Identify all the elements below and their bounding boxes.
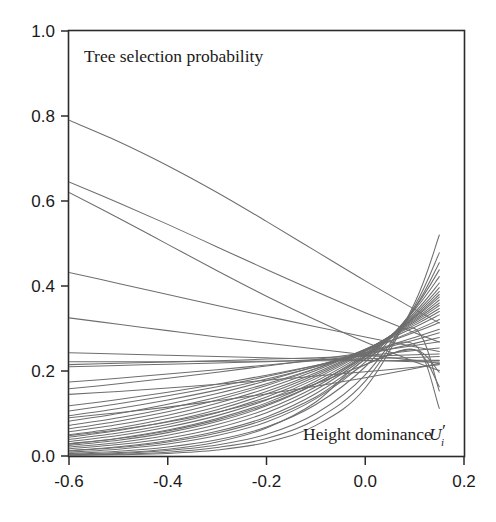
y-tick-label: 0.2 [31, 362, 55, 381]
svg-text:Height dominance: Height dominance [303, 424, 432, 444]
y-tick-label: 0.0 [31, 447, 55, 466]
y-axis-ticks: 0.00.20.40.60.81.0 [31, 22, 69, 466]
data-curve [69, 235, 439, 456]
x-tick-label: 0.2 [452, 472, 476, 491]
x-tick-label: -0.6 [54, 472, 83, 491]
curve-group [69, 120, 439, 455]
data-curve [69, 323, 439, 422]
figure-panel: 0.00.20.40.60.81.0 -0.6-0.4-0.20.00.2 Tr… [0, 0, 496, 522]
x-tick-label: 0.0 [353, 472, 377, 491]
x-tick-label: -0.2 [252, 472, 281, 491]
y-tick-label: 1.0 [31, 22, 55, 41]
data-curve [69, 354, 439, 365]
data-curve [69, 303, 439, 439]
x-tick-label: -0.4 [153, 472, 182, 491]
y-tick-label: 0.6 [31, 192, 55, 211]
data-curve [69, 309, 439, 435]
x-axis-ticks: -0.6-0.4-0.20.00.2 [54, 457, 475, 491]
plot-frame [69, 31, 465, 457]
y-tick-label: 0.4 [31, 277, 55, 296]
data-curve [69, 182, 439, 342]
chart-svg: 0.00.20.40.60.81.0 -0.6-0.4-0.20.00.2 Tr… [0, 0, 496, 522]
y-tick-label: 0.8 [31, 107, 55, 126]
data-curve [69, 320, 439, 426]
plot-title: Tree selection probability [84, 46, 263, 66]
svg-text:i: i [441, 436, 444, 448]
x-axis-annotation: Height dominance U ′ i [303, 420, 446, 448]
